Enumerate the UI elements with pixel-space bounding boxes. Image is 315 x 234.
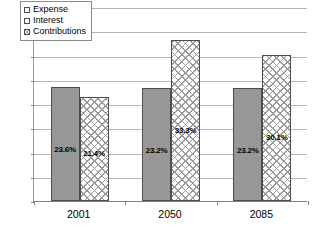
legend-item-label: Contributions [33, 26, 86, 37]
y-axis-tick-mark [31, 129, 34, 130]
contributions-swatch-icon [24, 29, 30, 35]
bar-chart: 0.0%23.6%21.4%0.0%23.2%33.3%0.0%23.2%30.… [0, 0, 315, 234]
bar-value-label: 30.1% [266, 133, 288, 142]
bar-contributions-2001: 21.4% [80, 97, 109, 201]
bar-interest-2085: 23.2% [233, 88, 262, 201]
y-axis-tick-mark [31, 57, 34, 58]
legend-item-label: Expense [33, 4, 68, 15]
chart-legend: ExpenseInterestContributions [20, 1, 92, 41]
bar-interest-2050: 23.2% [142, 88, 171, 201]
bar-value-label: 23.2% [146, 146, 168, 155]
bar-value-label: 33.3% [175, 126, 197, 135]
x-axis-tick-mark [125, 201, 126, 205]
x-axis-tick-label: 2050 [124, 208, 215, 220]
x-axis-tick-label: 2085 [216, 208, 307, 220]
legend-item-expense: Expense [24, 4, 86, 15]
x-axis-tick-mark [34, 201, 35, 205]
bar-contributions-2085: 30.1% [262, 55, 291, 201]
y-axis-tick-mark [31, 81, 34, 82]
y-axis-tick-mark [31, 105, 34, 106]
bar-value-label: 21.4% [83, 149, 105, 158]
legend-item-contributions: Contributions [24, 26, 86, 37]
bar-interest-2001: 23.6% [51, 87, 80, 201]
legend-item-interest: Interest [24, 15, 86, 26]
bar-value-label: 23.6% [54, 145, 76, 154]
expense-swatch-icon [24, 7, 30, 13]
x-axis-tick-label: 2001 [33, 208, 124, 220]
y-axis-tick-mark [31, 154, 34, 155]
legend-item-label: Interest [33, 15, 63, 26]
bar-group: 0.0%23.2%33.3% [142, 8, 200, 201]
interest-swatch-icon [24, 18, 30, 24]
bar-contributions-2050: 33.3% [171, 40, 200, 202]
bar-group: 0.0%23.2%30.1% [233, 8, 291, 201]
x-axis-tick-mark [308, 201, 309, 205]
y-axis-tick-mark [31, 178, 34, 179]
bar-value-label: 23.2% [237, 146, 259, 155]
x-axis-tick-mark [217, 201, 218, 205]
